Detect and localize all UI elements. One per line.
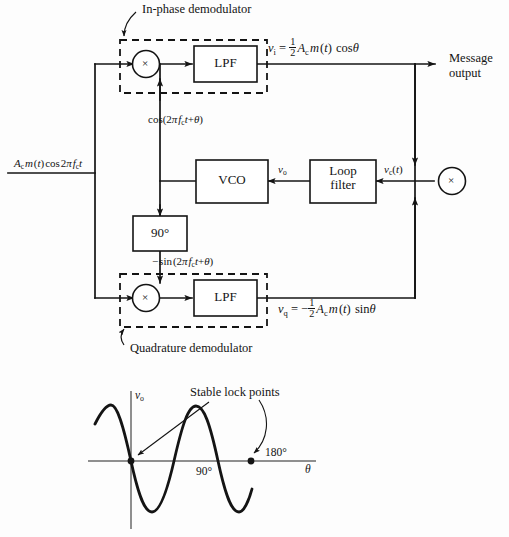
message-output-label: Message output: [449, 51, 493, 81]
v-i-expression: vi = 12 Ac m (t) cosθ: [268, 37, 359, 59]
in-phase-demodulator-annotation: In-phase demodulator: [142, 2, 251, 16]
phase-shifter-label: 90°: [133, 226, 187, 240]
plot-tick-180: 180°: [265, 446, 287, 459]
vco-label: VCO: [196, 173, 268, 187]
mixer-quadrature-symbol: ×: [142, 291, 148, 303]
loop-filter-label-line2: filter: [330, 177, 355, 192]
figure-canvas: LPF LPF VCO Loop filter 90° × × × In-pha…: [0, 0, 509, 537]
v-q-expression: vq = −12 Ac m (t) sinθ: [278, 298, 376, 320]
plot-x-axis-label: θ: [305, 463, 311, 476]
stable-lock-points-annotation: Stable lock points: [190, 385, 280, 399]
input-signal-label: Ac m (t) cos 2π fct: [14, 157, 82, 171]
discriminator-curve: [95, 405, 252, 512]
plot-y-axis-label: vo: [135, 389, 144, 404]
lpf-inphase-label: LPF: [194, 56, 257, 70]
message-output-line2: output: [449, 66, 481, 80]
diagram-vectors: [0, 0, 509, 537]
loop-filter-label: Loop filter: [310, 164, 376, 191]
v-o-label: vo: [278, 163, 287, 177]
lpf-quadrature-label: LPF: [194, 290, 257, 304]
message-output-line1: Message: [449, 51, 493, 65]
vco-output-signal-label: cos(2π fct+θ): [148, 113, 203, 127]
phase-shift-output-signal-label: − sin (2π fct+θ): [152, 255, 213, 269]
mixer-phase-detector-symbol: ×: [448, 174, 454, 186]
in-phase-leader: [124, 12, 136, 36]
plot-tick-90: 90°: [196, 465, 212, 478]
mixer-inphase-symbol: ×: [142, 57, 148, 69]
quadrature-demodulator-annotation: Quadrature demodulator: [130, 341, 253, 355]
quadrature-leader: [121, 329, 124, 345]
v-c-label: vc(t): [384, 163, 403, 177]
lock-point-leader-left: [138, 402, 209, 455]
